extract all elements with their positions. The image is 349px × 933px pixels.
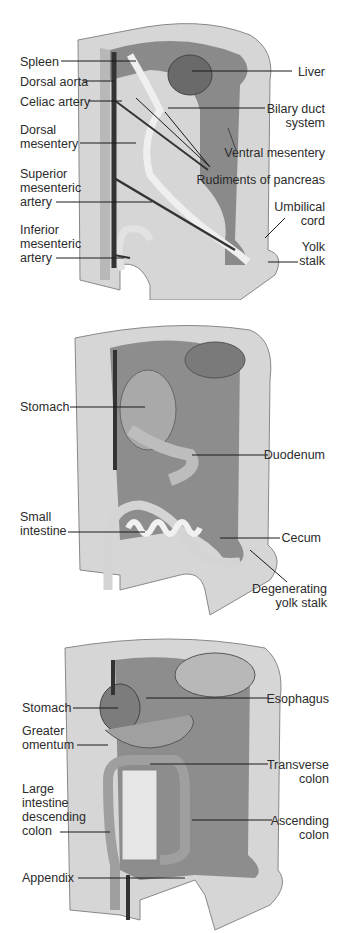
left-wall (100, 48, 110, 280)
label-umbilical-cord: Umbilical cord (274, 200, 325, 228)
label-degenerating-yolk-stalk: Degenerating yolk stalk (252, 582, 327, 610)
liver (185, 342, 245, 378)
label-esophagus: Esophagus (266, 692, 329, 706)
label-appendix: Appendix (22, 871, 74, 885)
label-yolk-stalk: Yolk stalk (299, 240, 325, 268)
panel-early-embryo: Spleen Dorsal aorta Celiac artery Dorsal… (0, 0, 349, 300)
label-rudiments-of-pancreas: Rudiments of pancreas (196, 173, 325, 187)
label-dorsal-aorta: Dorsal aorta (20, 75, 88, 89)
label-spleen: Spleen (20, 55, 59, 69)
label-superior-mesenteric-artery: Superior mesenteric artery (20, 167, 81, 209)
label-inferior-mesenteric-artery: Inferior mesenteric artery (20, 223, 81, 265)
label-stomach: Stomach (20, 400, 69, 414)
label-bilary-duct-system: Bilary duct system (267, 102, 325, 130)
label-small-intestine: Small intestine (20, 510, 67, 538)
label-ascending-colon: Ascending colon (271, 814, 329, 842)
label-liver: Liver (298, 65, 325, 79)
label-celiac-artery: Celiac artery (20, 95, 90, 109)
label-stomach: Stomach (22, 701, 71, 715)
panel-mid-stage: Stomach Small intestine Duodenum Cecum D… (0, 300, 349, 620)
panel-late-stage: Stomach Greater omentum Large intestine … (0, 620, 349, 933)
label-dorsal-mesentery: Dorsal mesentery (20, 123, 78, 151)
liver (168, 55, 212, 95)
label-greater-omentum: Greater omentum (22, 724, 74, 752)
label-ventral-mesentery: Ventral mesentery (224, 146, 325, 160)
label-duodenum: Duodenum (264, 448, 325, 462)
small-intestine-coils (122, 770, 157, 860)
label-cecum: Cecum (281, 531, 321, 545)
label-large-intestine-descending-colon: Large intestine descending colon (22, 782, 86, 838)
label-transverse-colon: Transverse colon (267, 758, 329, 786)
liver (175, 653, 255, 697)
